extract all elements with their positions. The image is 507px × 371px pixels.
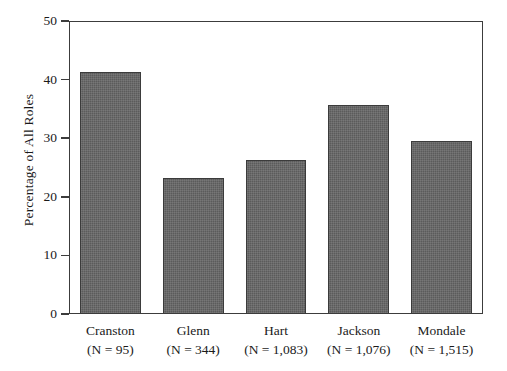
x-category-n: (N = 1,083) <box>235 340 318 359</box>
x-category-name: Jackson <box>317 321 400 340</box>
y-tick-label: 50 <box>44 12 58 30</box>
x-category-n: (N = 1,515) <box>400 340 483 359</box>
y-tick-mark <box>61 137 69 139</box>
y-axis-title: Percentage of All Roles <box>21 60 37 260</box>
x-category-name: Cranston <box>69 321 152 340</box>
y-tick-mark <box>61 79 69 81</box>
plot-area <box>69 21 483 314</box>
x-category-n: (N = 344) <box>152 340 235 359</box>
x-category-n: (N = 95) <box>69 340 152 359</box>
y-tick-mark <box>61 313 69 315</box>
x-tick-label: Cranston (N = 95) <box>69 321 152 359</box>
x-category-n: (N = 1,076) <box>317 340 400 359</box>
x-tick-label: Jackson (N = 1,076) <box>317 321 400 359</box>
x-tick-label: Hart (N = 1,083) <box>235 321 318 359</box>
y-tick-label: 20 <box>44 188 58 206</box>
y-tick-label: 10 <box>44 246 58 264</box>
y-tick-mark <box>61 20 69 22</box>
x-category-name: Hart <box>235 321 318 340</box>
bar-chart: Percentage of All Roles 0 10 20 30 40 50 <box>0 0 507 371</box>
y-tick-label: 40 <box>44 71 58 89</box>
y-tick-label: 30 <box>44 129 58 147</box>
x-tick-label: Glenn (N = 344) <box>152 321 235 359</box>
x-category-name: Mondale <box>400 321 483 340</box>
y-tick-label: 0 <box>50 305 57 323</box>
y-tick-mark <box>61 196 69 198</box>
x-category-name: Glenn <box>152 321 235 340</box>
x-tick-label: Mondale (N = 1,515) <box>400 321 483 359</box>
y-tick-mark <box>61 255 69 257</box>
